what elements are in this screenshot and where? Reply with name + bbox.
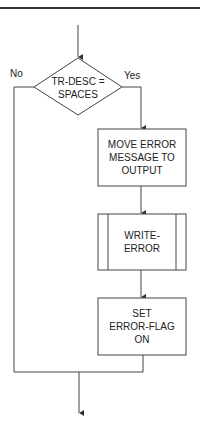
decision-line-2: SPACES	[58, 88, 98, 101]
step-3-text: SET ERROR-FLAG ON	[98, 298, 186, 355]
step-2-line-2: ERROR	[124, 242, 160, 255]
step-3-line-3: ON	[135, 333, 150, 346]
decision-text: TR-DESC = SPACES	[44, 74, 112, 102]
step-2-line-1: WRITE-	[124, 229, 160, 242]
step-3-line-2: ERROR-FLAG	[109, 320, 175, 333]
merge-connector	[14, 355, 143, 372]
step-3-line-1: SET	[132, 307, 151, 320]
step-1-line-2: MESSAGE TO	[109, 151, 175, 164]
step-1-line-3: OUTPUT	[121, 164, 162, 177]
step-1-line-1: MOVE ERROR	[108, 138, 176, 151]
step-1-text: MOVE ERROR MESSAGE TO OUTPUT	[98, 129, 186, 186]
yes-label: Yes	[124, 70, 140, 82]
no-label: No	[10, 68, 23, 80]
no-connector	[14, 87, 34, 372]
step-2-text: WRITE- ERROR	[108, 214, 176, 270]
yes-connector	[122, 87, 141, 128]
decision-line-1: TR-DESC =	[51, 75, 104, 88]
